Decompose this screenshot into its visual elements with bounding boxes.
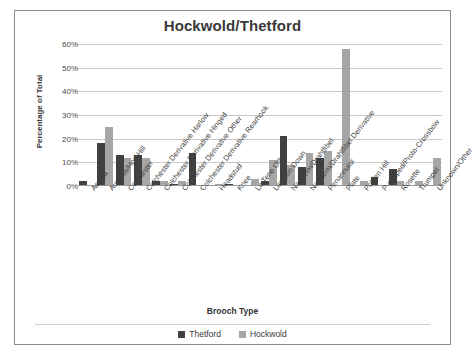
legend-divider bbox=[35, 324, 430, 325]
legend-entry-hockwold[interactable]: Hockwold bbox=[239, 329, 287, 339]
chart-container: Hockwold/Thetford Percentage of Total 0%… bbox=[14, 10, 451, 345]
y-tick-label: 0% bbox=[47, 182, 78, 191]
y-tick-label: 50% bbox=[47, 63, 78, 72]
legend-swatch-icon bbox=[178, 331, 185, 338]
y-tick-label: 40% bbox=[47, 87, 78, 96]
legend-swatch-icon bbox=[239, 331, 246, 338]
legend-entry-thetford[interactable]: Thetford bbox=[178, 329, 221, 339]
chart-title: Hockwold/Thetford bbox=[15, 17, 450, 34]
y-axis-title: Percentage of Total bbox=[35, 52, 44, 172]
chart-legend: ThetfordHockwold bbox=[15, 329, 450, 339]
legend-label: Hockwold bbox=[250, 329, 287, 339]
y-tick-label: 30% bbox=[47, 111, 78, 120]
y-tick-label: 10% bbox=[47, 158, 78, 167]
y-tick-label: 60% bbox=[47, 40, 78, 49]
bar-group bbox=[96, 44, 114, 186]
bar-group bbox=[78, 44, 96, 186]
x-axis-title: Brooch Type bbox=[15, 306, 450, 316]
y-tick-label: 20% bbox=[47, 134, 78, 143]
y-axis-tick-labels: 0%10%20%30%40%50%60% bbox=[45, 44, 78, 186]
x-axis-tick-labels: AesicaAucissa/Hod HillColchesterColchest… bbox=[78, 187, 442, 305]
legend-label: Thetford bbox=[189, 329, 221, 339]
